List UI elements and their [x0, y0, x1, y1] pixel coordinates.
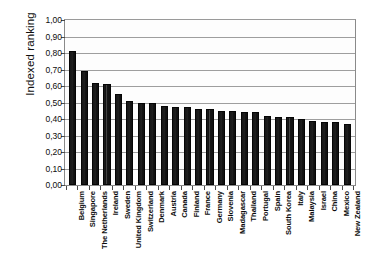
bar-item: [307, 20, 318, 185]
bar: [206, 109, 213, 185]
x-label-cell: Finland: [181, 191, 193, 261]
y-tick-label: 0,70: [45, 65, 62, 75]
x-label-cell: Ireland: [101, 191, 113, 261]
bar: [332, 122, 339, 185]
bar: [115, 94, 122, 185]
bar: [298, 119, 305, 185]
x-label-cell: Israel: [308, 191, 320, 261]
bar-item: [193, 20, 204, 185]
plot-area: 1,000,900,800,700,600,500,400,300,200,10…: [64, 19, 356, 186]
bar-item: [239, 20, 250, 185]
x-label-cell: The Netherlands: [89, 191, 101, 261]
bar-item: [284, 20, 295, 185]
bar-item: [342, 20, 353, 185]
y-tick-label: 0,50: [45, 98, 62, 108]
bar-item: [124, 20, 135, 185]
bar: [309, 121, 316, 185]
x-label-cell: Denmark: [147, 191, 159, 261]
bar-item: [170, 20, 181, 185]
x-label-cell: New Zealand: [342, 191, 354, 261]
bar: [286, 117, 293, 185]
x-label-cell: Singapore: [78, 191, 90, 261]
bar-item: [90, 20, 101, 185]
bar: [103, 84, 110, 185]
x-label-cell: Austria: [158, 191, 170, 261]
y-tick-label: 0,40: [45, 114, 62, 124]
bar-item: [78, 20, 89, 185]
x-label-cell: United Kingdom: [124, 191, 136, 261]
bar: [321, 122, 328, 185]
x-label-cell: South Korea: [273, 191, 285, 261]
bar-item: [181, 20, 192, 185]
bar-item: [227, 20, 238, 185]
bar-item: [113, 20, 124, 185]
x-label-cell: Mexico: [331, 191, 343, 261]
y-tick-label: 0,20: [45, 147, 62, 157]
bar: [252, 112, 259, 185]
bar: [184, 107, 191, 185]
bar: [69, 51, 76, 185]
bar-item: [296, 20, 307, 185]
bar: [218, 111, 225, 185]
bar-item: [159, 20, 170, 185]
bar-item: [147, 20, 158, 185]
bar: [149, 103, 156, 186]
y-axis-title: Indexed ranking: [24, 0, 36, 129]
bar: [229, 111, 236, 185]
bar: [264, 116, 271, 185]
bar-item: [319, 20, 330, 185]
bar-item: [273, 20, 284, 185]
x-label-cell: Belgium: [66, 191, 78, 261]
x-label-cell: Canada: [170, 191, 182, 261]
bar-item: [250, 20, 261, 185]
bar: [92, 83, 99, 185]
x-label-cell: France: [193, 191, 205, 261]
y-tick-label: 1,00: [45, 15, 62, 25]
x-axis-labels: BelgiumSingaporeThe NetherlandsIrelandSw…: [64, 191, 356, 261]
y-tick-label: 0,60: [45, 81, 62, 91]
bar: [172, 107, 179, 185]
x-label-cell: Thailand: [239, 191, 251, 261]
y-tick-label: 0,90: [45, 32, 62, 42]
bar: [161, 106, 168, 185]
x-label-cell: Slovenia: [216, 191, 228, 261]
bar-series: [65, 20, 355, 185]
bar: [275, 117, 282, 185]
bar-chart: Indexed ranking 1,000,900,800,700,600,50…: [0, 0, 371, 266]
x-label-cell: Sweden: [112, 191, 124, 261]
x-label-cell: Spain: [262, 191, 274, 261]
x-label-cell: Switzerland: [135, 191, 147, 261]
bar: [138, 103, 145, 186]
x-label-cell: China: [319, 191, 331, 261]
y-tick-label: 0,10: [45, 164, 62, 174]
bar: [195, 109, 202, 185]
y-tick-label: 0,30: [45, 131, 62, 141]
x-tick-label: New Zealand: [353, 191, 362, 236]
y-tick-label: 0,00: [45, 180, 62, 190]
bar: [344, 124, 351, 185]
x-label-cell: Italy: [285, 191, 297, 261]
x-label-cell: Malaysia: [296, 191, 308, 261]
bar-item: [216, 20, 227, 185]
bar-item: [101, 20, 112, 185]
bar-item: [261, 20, 272, 185]
bar: [241, 112, 248, 185]
x-label-cell: Madagascar: [227, 191, 239, 261]
y-tick-label: 0,80: [45, 48, 62, 58]
bar: [126, 101, 133, 185]
bar-item: [330, 20, 341, 185]
bar: [81, 71, 88, 185]
x-label-cell: Germany: [204, 191, 216, 261]
bar-item: [136, 20, 147, 185]
bar-item: [204, 20, 215, 185]
bar-item: [67, 20, 78, 185]
x-label-cell: Portugal: [250, 191, 262, 261]
